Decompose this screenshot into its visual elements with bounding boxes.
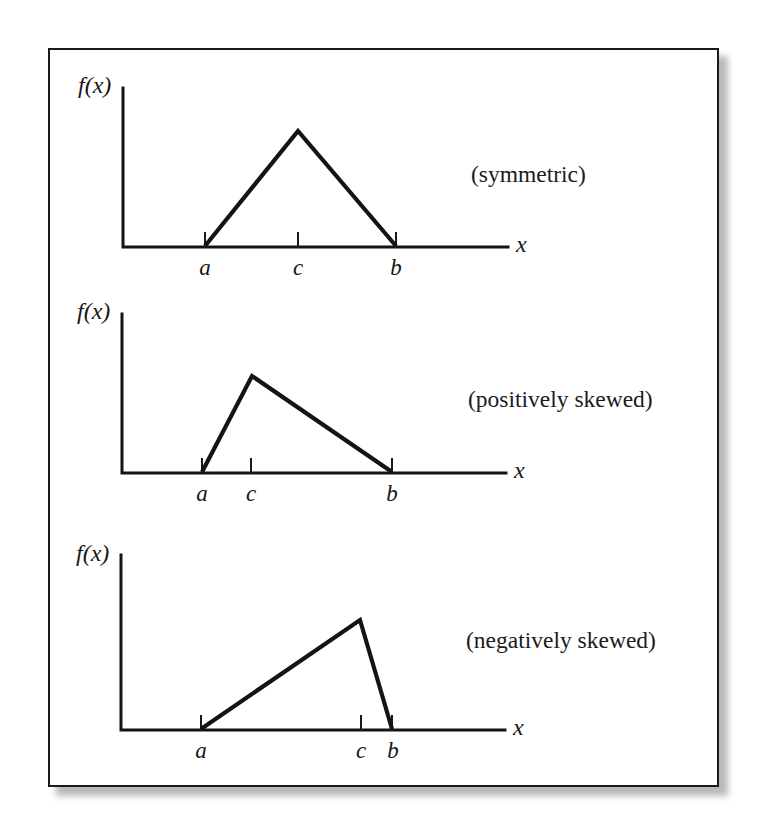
panel2-y-axis-label: f(x) [77,299,110,323]
panel1-y-axis-label: f(x) [78,73,111,97]
panel1-axes [123,88,508,247]
panel3-y-axis-label: f(x) [76,541,109,565]
panel3-tick-label-a: a [195,739,207,762]
panel1-tick-label-b: b [390,256,402,279]
panel3-triangle-curve [201,620,392,729]
panel2-triangle-curve [202,376,392,472]
panel3-x-axis-label: x [513,715,524,739]
panel2-tick-label-a: a [196,482,208,505]
panel-negatively-skewed-graphics [121,555,505,731]
panel2-tick-label-c: c [246,482,256,505]
panel2-axes [122,314,506,473]
panel1-x-axis-label: x [516,232,527,256]
panel3-tick-label-c: c [356,739,366,762]
figure-drawing [0,0,763,832]
panel2-x-axis-label: x [514,458,525,482]
panel1-caption: (symmetric) [471,163,586,187]
panel3-tick-label-b: b [387,739,399,762]
panel1-tick-label-c: c [293,256,303,279]
panel3-axes [121,555,505,730]
panel3-caption: (negatively skewed) [466,629,656,653]
figure-page: f(x) x a c b (symmetric) f(x) x a c b (p… [0,0,763,832]
panel1-tick-label-a: a [199,256,211,279]
panel1-triangle-curve [205,131,396,246]
panel2-caption: (positively skewed) [468,388,653,412]
panel-positively-skewed-graphics [122,314,506,474]
panel-symmetric-graphics [123,88,508,248]
panel2-tick-label-b: b [386,482,398,505]
